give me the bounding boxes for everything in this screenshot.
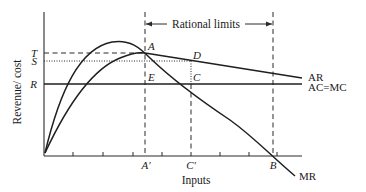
curve-label-mr: MR — [299, 170, 317, 182]
point-label-e: E — [147, 71, 155, 83]
curve-label-ac-mc: AC=MC — [308, 81, 347, 93]
diagram-canvas: Rational limits T S R A D E C A′ C′ B AR… — [0, 0, 366, 192]
point-label-a: A — [147, 40, 155, 52]
x-marker-b: B — [270, 159, 277, 171]
arrow-left-icon — [146, 22, 152, 27]
ar-curve — [45, 53, 302, 153]
point-label-d: D — [192, 49, 201, 61]
point-label-c: C — [193, 71, 201, 83]
x-axis-ticks — [73, 152, 277, 156]
rational-limits-bracket: Rational limits — [146, 18, 272, 30]
rational-limits-label: Rational limits — [172, 18, 241, 30]
x-marker-a-prime: A′ — [140, 159, 151, 171]
y-axis-label: Revenue/ cost — [11, 59, 23, 125]
y-level-label-r: R — [29, 78, 37, 90]
x-axis-label: Inputs — [182, 174, 211, 187]
arrow-right-icon — [266, 22, 272, 27]
y-level-label-s: S — [32, 55, 38, 67]
x-marker-c-prime: C′ — [186, 159, 196, 171]
